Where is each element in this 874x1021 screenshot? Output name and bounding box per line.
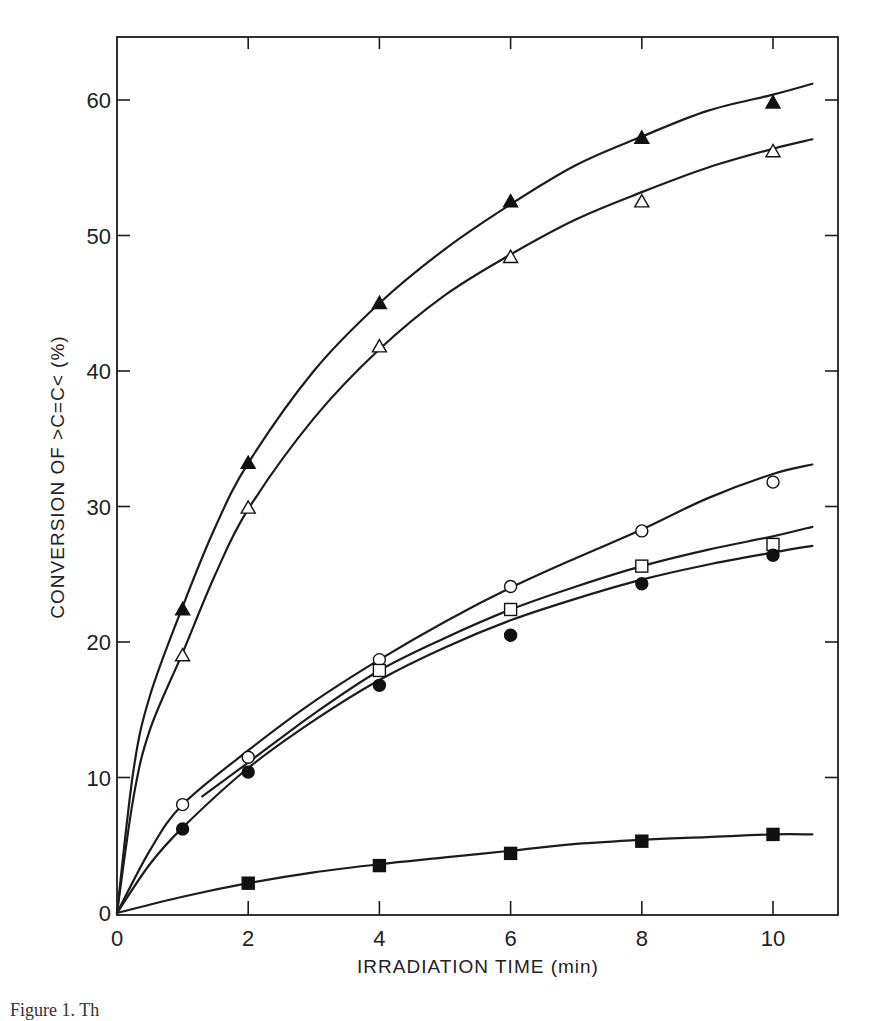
square-filled-marker (373, 860, 385, 872)
circle-open-marker (767, 476, 779, 488)
circle-filled-marker (636, 578, 648, 590)
circle-open-marker (505, 580, 517, 592)
square-open-marker (505, 603, 517, 615)
triangle-filled-marker (176, 602, 190, 614)
y-tick-label: 20 (87, 630, 111, 655)
circle-filled-marker (505, 629, 517, 641)
triangle-filled-marker (766, 96, 780, 108)
y-tick-label: 10 (87, 766, 111, 791)
triangle-open-marker (176, 649, 190, 661)
square-filled-marker (505, 847, 517, 859)
triangle-filled-marker (635, 131, 649, 143)
x-tick-label: 4 (373, 926, 385, 951)
square-filled-marker (767, 828, 779, 840)
circle-filled-marker (767, 549, 779, 561)
y-tick-label: 50 (87, 224, 111, 249)
y-axis-title: CONVERSION OF >C=C< (%) (47, 335, 68, 618)
square-open-marker (636, 560, 648, 572)
x-tick-label: 10 (761, 926, 785, 951)
x-tick-label: 6 (504, 926, 516, 951)
axis-ticks (117, 37, 838, 915)
circle-open-marker (636, 525, 648, 537)
square-open-marker (373, 664, 385, 676)
square-filled-marker (636, 835, 648, 847)
curve-square-open (202, 527, 812, 797)
plot-frame (117, 37, 838, 915)
data-markers (176, 96, 780, 889)
x-tick-label: 2 (242, 926, 254, 951)
x-tick-label: 8 (636, 926, 648, 951)
triangle-filled-marker (241, 456, 255, 468)
triangle-open-marker (635, 195, 649, 207)
y-tick-label: 60 (87, 88, 111, 113)
curve-circle-open (117, 464, 812, 913)
figure-caption-fragment: Figure 1. Th (10, 1000, 99, 1021)
axes-box (117, 37, 838, 915)
curve-square-filled (117, 834, 812, 913)
x-axis-title: IRRADIATION TIME (min) (357, 956, 599, 977)
x-tick-label: 0 (111, 926, 123, 951)
circle-open-marker (177, 799, 189, 811)
circle-filled-marker (177, 823, 189, 835)
fitted-curves (117, 84, 812, 913)
y-tick-label: 30 (87, 495, 111, 520)
y-tick-label: 0 (99, 901, 111, 926)
square-filled-marker (242, 877, 254, 889)
curve-triangle-open (117, 139, 812, 913)
y-tick-label: 40 (87, 359, 111, 384)
circle-filled-marker (242, 766, 254, 778)
axis-tick-labels: 02468100102030405060 (87, 88, 786, 951)
curve-circle-filled (117, 546, 812, 913)
circle-open-marker (242, 751, 254, 763)
circle-filled-marker (373, 679, 385, 691)
